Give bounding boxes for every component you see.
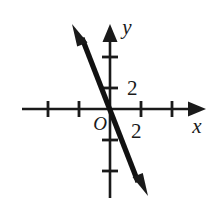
coordinate-plane-svg: x y O 2 2 — [0, 0, 223, 208]
x-axis-label: x — [191, 114, 202, 138]
graph-figure: x y O 2 2 — [0, 0, 223, 208]
y-axis-tick-label-2: 2 — [127, 76, 138, 100]
origin-label: O — [93, 113, 107, 134]
y-axis-label: y — [120, 15, 132, 39]
x-axis-tick-label-2: 2 — [131, 119, 142, 143]
